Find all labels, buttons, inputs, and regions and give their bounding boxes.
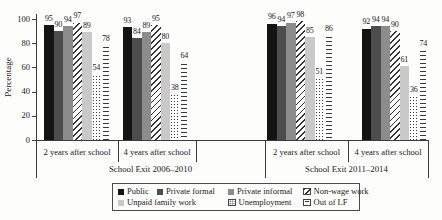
bar-value-label: 86 [319,24,339,33]
legend-swatch-unemployment [228,199,236,207]
legend-label: Unemployment [239,197,292,208]
y-axis-line [36,14,37,140]
category-label: 4 years after school [118,145,196,160]
y-tick-label: 80 [8,39,30,48]
bar-out-of-lf [419,50,429,140]
bar-private-informal [286,23,296,140]
legend-label: Private formal [166,186,215,197]
bar-value-label: 90 [385,20,405,29]
bar-unemployment [92,75,102,140]
bar-value-label: 85 [300,26,320,35]
bar-unemployment [315,78,325,140]
bar-non-wage-work [151,25,161,140]
bar-private-formal [277,26,287,140]
bar-value-label: 98 [290,10,310,19]
legend-swatch-out-of-lf [303,199,311,207]
legend-item-private-informal: Private informal [228,186,292,197]
category-label: 4 years after school [348,145,428,160]
legend-label: Unpaid family work [127,197,196,208]
y-tick-label: 0 [8,136,30,145]
bar-public [362,29,372,140]
bar-out-of-lf [180,63,190,140]
legend-label: Public [127,186,149,197]
legend-item-out-of-lf: Out of LF [303,197,348,208]
bar-value-label: 93 [117,16,137,25]
y-tick-mark [32,116,36,117]
legend-swatch-public [118,189,124,195]
legend-label: Non-wage work [314,186,369,197]
bar-value-label: 95 [146,14,166,23]
y-tick-mark [32,43,36,44]
bar-value-label: 64 [174,51,194,60]
category-label: 2 years after school [265,145,348,160]
bar-private-formal [54,31,64,140]
bar-unpaid-family-work [161,43,171,140]
bar-value-label: 89 [77,21,97,30]
bar-private-informal [142,32,152,140]
bar-non-wage-work [73,23,83,140]
y-tick-mark [32,19,36,20]
legend-item-private-formal: Private formal [157,186,215,197]
x-axis-baseline [36,140,428,141]
bar-out-of-lf [101,46,111,140]
bar-private-formal [132,38,142,140]
bar-public [44,25,54,140]
y-tick-mark [32,67,36,68]
bar-value-label: 97 [67,11,87,20]
legend-swatch-private-informal [228,189,234,195]
legend-swatch-private-formal [157,189,163,195]
legend-item-public: Public [118,186,149,197]
legend-item-non-wage-work: Non-wage work [303,186,369,197]
bar-non-wage-work [390,31,400,140]
region-label-2006-2010: School Exit 2006–2010 [36,163,265,176]
bar-value-label: 78 [96,34,116,43]
y-tick-label: 20 [8,111,30,120]
legend-label: Out of LF [314,197,348,208]
bar-unpaid-family-work [82,32,92,140]
legend-swatch-unpaid-family-work [118,200,124,206]
bar-unpaid-family-work [305,37,315,140]
legend-swatch-non-wage-work [303,188,311,196]
bar-private-informal [63,26,73,140]
bar-non-wage-work [296,21,306,140]
bar-public [123,27,133,140]
bar-value-label: 80 [155,32,175,41]
bar-private-formal [371,26,381,140]
legend-item-unpaid-family-work: Unpaid family work [118,197,196,208]
bar-chart-figure: Percentage 020406080100 9590949789547893… [0,0,442,220]
bar-private-informal [381,26,391,140]
legend-box: PublicPrivate formalPrivate informalNon-… [112,183,360,211]
y-tick-mark [32,92,36,93]
region-label-2011-2014: School Exit 2011–2014 [265,163,428,176]
y-tick-label: 60 [8,63,30,72]
bar-value-label: 74 [413,39,433,48]
legend-item-unemployment: Unemployment [228,197,291,208]
bar-unemployment [170,94,180,140]
legend-label: Private informal [237,186,292,197]
bar-value-label: 61 [394,55,414,64]
bar-out-of-lf [324,36,334,140]
bar-public [267,24,277,140]
y-tick-label: 40 [8,87,30,96]
category-label: 2 years after school [36,145,118,160]
bar-unpaid-family-work [400,66,410,140]
y-tick-label: 100 [8,15,30,24]
bar-unemployment [409,96,419,140]
